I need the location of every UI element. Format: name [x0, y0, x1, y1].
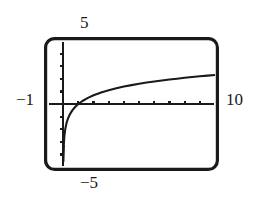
y-max-label: 5 [80, 14, 89, 31]
figure-canvas: 5 −5 −1 10 [0, 0, 264, 203]
y-min-label: −5 [80, 174, 98, 191]
plot-area [44, 37, 219, 171]
asymptote-tail [63, 145, 64, 162]
plot-window-frame [44, 37, 219, 171]
x-max-label: 10 [226, 91, 243, 108]
x-min-label: −1 [16, 91, 34, 108]
